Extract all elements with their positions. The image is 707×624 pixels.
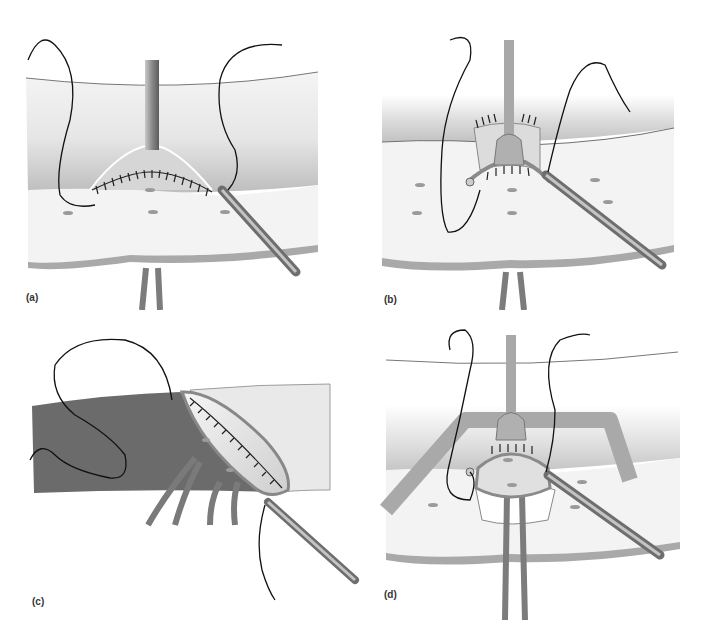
panel-b-illustration (370, 0, 707, 310)
suture-thread-lower (259, 505, 275, 600)
panel-label-a: (a) (26, 292, 38, 303)
vessels (142, 268, 160, 310)
panel-c-illustration (0, 310, 370, 624)
panel-a-illustration (0, 0, 340, 310)
panel-b: (b) (370, 0, 707, 310)
panel-d-illustration (370, 310, 707, 624)
panel-d: (d) (370, 310, 707, 624)
retractor-icon (504, 40, 514, 135)
panel-label-c: (c) (32, 596, 44, 607)
panel-label-d: (d) (384, 589, 397, 600)
retractor-icon (145, 60, 159, 150)
panel-a: (a) (0, 0, 340, 310)
vessels (502, 272, 524, 310)
panel-label-b: (b) (384, 294, 397, 305)
ring-icon (466, 178, 474, 186)
retractor-icon (506, 335, 516, 415)
panel-c: (c) (0, 310, 370, 624)
anastomosis (476, 454, 550, 497)
